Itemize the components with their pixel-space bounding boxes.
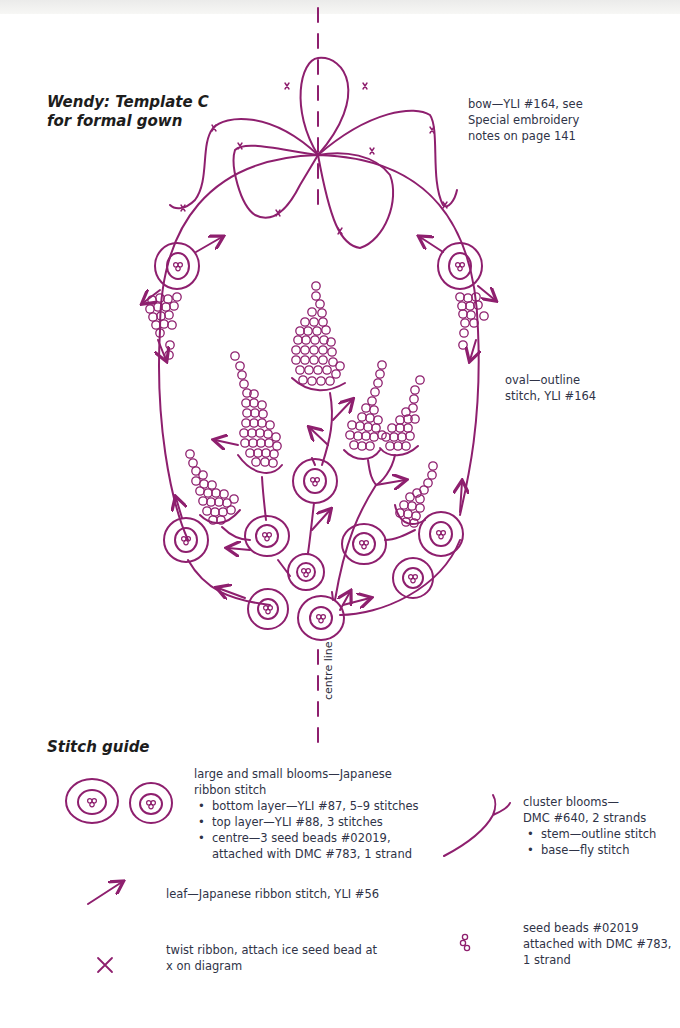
cluster-bloom-right-pair [335, 361, 424, 600]
cluster-legend: cluster blooms— DMC #640, 2 strands stem… [523, 794, 656, 858]
cluster-bullet: stem—outline stitch [523, 826, 656, 842]
cluster-bloom-far-left [186, 450, 250, 540]
small-bloom-icon [130, 783, 172, 823]
bow [170, 58, 457, 248]
twist-legend: twist ribbon, attach ice seed bead at x … [166, 942, 377, 974]
embroidery-diagram [0, 0, 680, 1028]
bloom-top-right [438, 243, 482, 289]
twist-bead-marks [181, 83, 447, 234]
cluster-stem-icon [444, 795, 510, 856]
cluster-bloom-left [215, 352, 282, 520]
blooms-bullet: bottom layer—YLI #87, 5–9 stitches [194, 798, 419, 814]
cross-icon [98, 958, 112, 972]
large-bloom-icon [66, 779, 118, 823]
cluster-bullet: base—fly stitch [523, 842, 656, 858]
blooms-bullet: centre—3 seed beads #02019, [194, 830, 419, 846]
blooms-bullet: top layer—YLI #88, 3 stitches [194, 814, 419, 830]
leaf-arrow-icon [88, 882, 122, 904]
lower-blooms [164, 459, 463, 640]
stitch-guide-heading: Stitch guide [47, 738, 150, 756]
title-line-2: for formal gown [47, 112, 209, 131]
side-bead-cluster-right [456, 293, 488, 349]
page-title: Wendy: Template C for formal gown [47, 93, 209, 131]
oval-annotation: oval—outline stitch, YLI #164 [505, 372, 596, 404]
cluster-bloom-far-right [385, 462, 437, 540]
bow-annotation: bow—YLI #164, see Special embroidery not… [468, 96, 583, 144]
blooms-legend: large and small blooms—Japanese ribbon s… [194, 766, 419, 862]
bloom-top-left [155, 243, 199, 289]
seed-bead-icon [460, 934, 469, 950]
seed-bead-legend: seed beads #02019 attached with DMC #783… [523, 920, 672, 968]
title-line-1: Wendy: Template C [47, 93, 209, 112]
cluster-bloom-centre [292, 282, 352, 465]
leaf-legend: leaf—Japanese ribbon stitch, YLI #56 [166, 886, 379, 902]
side-bead-cluster-left [146, 293, 181, 359]
centre-line-label: centre line [322, 642, 335, 701]
